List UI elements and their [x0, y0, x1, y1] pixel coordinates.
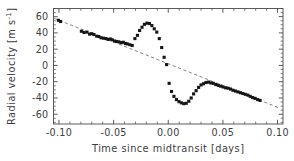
x-tick-label: 0.10	[266, 127, 289, 138]
data-point	[85, 31, 88, 34]
y-tick-label: 60	[36, 11, 49, 22]
y-tick-label: 0	[42, 60, 48, 71]
data-point	[131, 44, 134, 47]
data-point	[92, 33, 95, 36]
data-point	[190, 96, 193, 99]
data-point	[155, 31, 158, 34]
data-point	[160, 46, 163, 49]
data-point	[59, 20, 62, 23]
data-point	[259, 99, 262, 102]
data-point	[83, 31, 86, 34]
y-tick-label: 40	[36, 27, 49, 38]
data-point	[165, 63, 168, 66]
x-tick-label: -0.10	[46, 127, 72, 138]
data-point	[187, 100, 190, 103]
data-point	[136, 34, 139, 37]
x-tick-label: -0.05	[100, 127, 126, 138]
y-tick-label: 20	[36, 44, 49, 55]
data-point	[195, 89, 198, 92]
data-point	[158, 37, 161, 40]
data-point	[153, 27, 156, 30]
x-axis-title: Time since midtransit [days]	[91, 143, 244, 154]
data-point	[138, 29, 141, 32]
data-point	[168, 82, 171, 85]
data-point	[172, 95, 175, 98]
data-point	[150, 24, 153, 27]
radial-velocity-figure: -0.10-0.050.000.050.10Time since midtran…	[0, 0, 294, 161]
y-tick-label: -60	[32, 109, 49, 120]
plot-canvas: -0.10-0.050.000.050.10Time since midtran…	[0, 0, 294, 161]
data-point	[192, 92, 195, 95]
y-tick-label: -40	[32, 92, 49, 103]
data-layer	[54, 18, 279, 107]
data-point	[133, 37, 136, 40]
svg-text:Radial velocity [m s-1]: Radial velocity [m s-1]	[5, 8, 16, 125]
data-point	[170, 90, 173, 93]
plot-frame	[54, 9, 284, 125]
x-tick-label: 0.05	[212, 127, 235, 138]
y-axis-title: Radial velocity [m s-1]	[5, 8, 16, 125]
y-tick-label: -20	[32, 76, 49, 87]
data-point	[163, 56, 166, 59]
x-tick-label: 0.00	[157, 127, 180, 138]
data-point	[80, 30, 83, 33]
data-point	[140, 26, 143, 29]
